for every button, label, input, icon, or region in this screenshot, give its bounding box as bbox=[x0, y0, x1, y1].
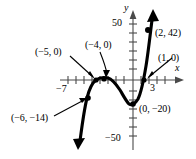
x-tick-label-minus7: −7 bbox=[56, 84, 67, 94]
x-tick-label-3: 3 bbox=[150, 83, 155, 93]
graph-canvas bbox=[0, 0, 196, 159]
y-axis-label: y bbox=[124, 3, 128, 13]
point-label-0-m20: (0, −20) bbox=[139, 104, 171, 114]
y-axis-arrow bbox=[130, 10, 137, 19]
x-axis-arrow bbox=[175, 77, 184, 84]
y-tick-label-50: 50 bbox=[112, 18, 122, 28]
y-tick-label-minus50: −50 bbox=[105, 133, 121, 143]
point-label-m6-m14: (−6, −14) bbox=[11, 113, 48, 123]
math-figure: (−5, 0) (−4, 0) (−6, −14) (2, 42) (1, 0)… bbox=[0, 0, 196, 159]
point-label-m5-0: (−5, 0) bbox=[35, 47, 62, 57]
marker-pt-1-0 bbox=[141, 77, 146, 82]
x-axis-label: x bbox=[175, 63, 179, 73]
point-label-2-42: (2, 42) bbox=[155, 28, 181, 38]
marker-pt-2-42 bbox=[145, 27, 151, 33]
marker-pt-0-m20 bbox=[130, 101, 136, 107]
x-axis bbox=[60, 76, 184, 84]
point-label-m4-0: (−4, 0) bbox=[85, 40, 112, 50]
curve-arrow-bottom bbox=[73, 138, 85, 150]
leader-m6-m14 bbox=[54, 100, 84, 116]
curve-arrow-top bbox=[147, 9, 159, 22]
